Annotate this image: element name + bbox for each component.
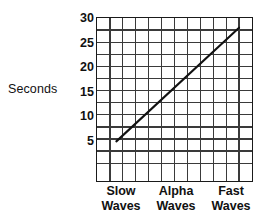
y-tick-label-20: 20 [62, 61, 94, 73]
x-label-fast-waves: Fast Waves [200, 184, 262, 213]
y-tick-label-25: 25 [62, 37, 94, 49]
y-tick-label-30: 30 [62, 12, 94, 24]
y-tick-label-5: 5 [62, 135, 94, 147]
grid-lines [97, 18, 252, 181]
line-chart-figure: Seconds 30 25 20 15 10 5 [0, 0, 269, 218]
x-label-fast-waves-line2: Waves [200, 199, 262, 214]
data-series-line [116, 28, 239, 142]
y-axis-title: Seconds [8, 82, 57, 96]
y-tick-label-10: 10 [62, 110, 94, 122]
x-axis-category-labels: Slow Waves Alpha Waves Fast Waves [88, 184, 263, 216]
x-label-fast-waves-line1: Fast [200, 184, 262, 199]
grid-and-series [97, 18, 252, 181]
y-tick-label-15: 15 [62, 86, 94, 98]
y-axis-tick-labels: 30 25 20 15 10 5 [62, 12, 94, 184]
plot-area [96, 17, 253, 182]
